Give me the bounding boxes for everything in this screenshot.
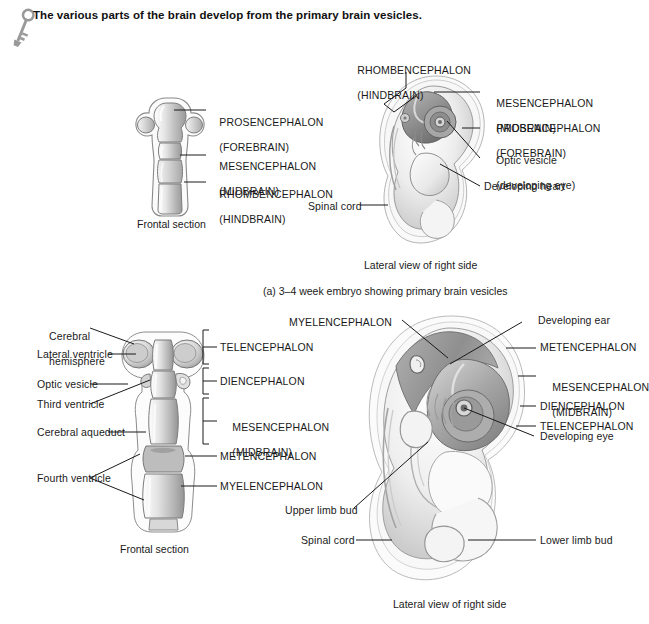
label-spinal-cord-b: Spinal cord — [301, 534, 355, 546]
label-line1: RHOMBENCEPHALON — [219, 188, 333, 200]
panel-b-leader-upper-limb — [352, 440, 432, 512]
panel-b-leader-lower-limb — [468, 534, 540, 546]
label-developing-heart-a: Developing heart — [484, 180, 565, 192]
label-line1: Optic vesicle — [496, 154, 557, 166]
figure-title: The various parts of the brain develop f… — [33, 9, 422, 21]
label-metencephalon-b-left: METENCEPHALON — [220, 450, 316, 462]
label-upper-limb-bud-b: Upper limb bud — [285, 504, 358, 516]
label-myelencephalon-b-left: MYELENCEPHALON — [220, 480, 323, 492]
label-optic-vesicle-b: Optic vesicle — [37, 378, 98, 390]
label-line2: (HINDBRAIN) — [357, 89, 423, 101]
panel-b-leader-developing-eye — [462, 406, 540, 440]
label-fourth-ventricle-b: Fourth ventricle — [37, 472, 111, 484]
label-line1: MESENCEPHALON — [552, 381, 649, 393]
label-lateral-ventricle-b: Lateral ventricle — [37, 348, 113, 360]
panel-a-leader-spinal-cord — [360, 198, 394, 212]
caption-frontal-section-b: Frontal section — [120, 543, 189, 555]
label-line1: PROSENCEPHALON — [496, 122, 600, 134]
label-developing-ear-b: Developing ear — [538, 314, 610, 326]
label-third-ventricle-b: Third ventricle — [37, 398, 104, 410]
label-diencephalon-b-right: DIENCEPHALON — [540, 400, 625, 412]
label-line1: RHOMBENCEPHALON — [357, 64, 471, 76]
label-myelencephalon-b-right: MYELENCEPHALON — [289, 316, 392, 328]
label-line1: Cerebral — [49, 330, 90, 342]
label-line1: MESENCEPHALON — [496, 97, 593, 109]
panel-b-left-brackets — [197, 328, 221, 498]
label-line2: (HINDBRAIN) — [219, 213, 285, 225]
label-cerebral-aqueduct-b: Cerebral aqueduct — [37, 426, 125, 438]
label-developing-eye-b: Developing eye — [540, 430, 614, 442]
caption-lateral-view-a: Lateral view of right side — [364, 259, 477, 271]
panel-b-leader-spinal-cord — [356, 534, 396, 546]
label-spinal-cord-a: Spinal cord — [308, 200, 362, 212]
label-line1: MESENCEPHALON — [232, 421, 329, 433]
label-lower-limb-bud-b: Lower limb bud — [540, 534, 613, 546]
panel-a-right-leaders — [428, 86, 488, 196]
caption-frontal-section-a: Frontal section — [137, 218, 206, 230]
label-optic-vesicle-a: Optic vesicle (developing eye) — [484, 142, 575, 203]
caption-lateral-view-b: Lateral view of right side — [393, 598, 506, 610]
label-line1: MESENCEPHALON — [219, 160, 316, 172]
label-diencephalon-b-left: DIENCEPHALON — [220, 375, 305, 387]
label-metencephalon-b-right: METENCEPHALON — [540, 341, 636, 353]
label-telencephalon-b-left: TELENCEPHALON — [220, 341, 314, 353]
label-line1: PROSENCEPHALON — [219, 116, 323, 128]
caption-panel-a: (a) 3–4 week embryo showing primary brai… — [263, 285, 508, 297]
